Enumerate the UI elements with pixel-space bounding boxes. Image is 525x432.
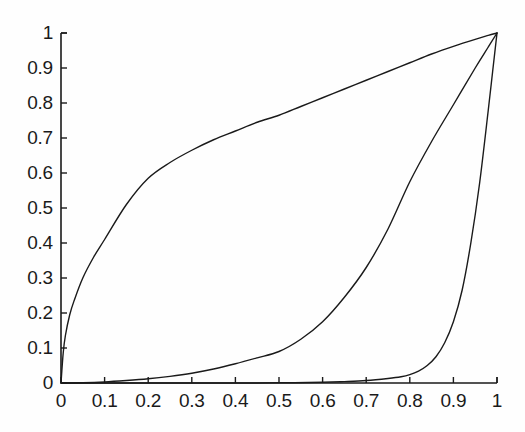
x-axis-tick-label: 0.3 — [179, 390, 205, 412]
x-axis-tick-label: 0.8 — [397, 390, 423, 412]
x-axis-tick-label: 0.6 — [310, 390, 336, 412]
data-series-group — [61, 33, 497, 383]
y-axis-tick-label: 0.6 — [0, 162, 53, 184]
y-axis-tick-label: 0.7 — [0, 127, 53, 149]
y-axis-tick-label: 0.8 — [0, 92, 53, 114]
y-axis-tick-label: 0.3 — [0, 267, 53, 289]
data-series-right-steep-curve — [61, 33, 497, 383]
x-axis-tick-label: 0.4 — [222, 390, 248, 412]
y-axis-tick-label: 0 — [0, 372, 53, 394]
y-axis-tick-label: 0.4 — [0, 232, 53, 254]
y-axis-tick-label: 0.9 — [0, 57, 53, 79]
x-axis-tick-label: 0.1 — [92, 390, 118, 412]
x-axis-tick-label: 0 — [56, 390, 66, 412]
chart-plot-area — [0, 0, 525, 432]
chart-figure: 00.10.20.30.40.50.60.70.80.91 00.10.20.3… — [0, 0, 525, 432]
data-series-middle-convex-curve — [61, 33, 497, 383]
axis-tick-marks — [61, 33, 497, 383]
x-axis-tick-label: 1 — [492, 390, 502, 412]
y-axis-tick-label: 0.1 — [0, 337, 53, 359]
y-axis-tick-label: 1 — [0, 22, 53, 44]
axis-lines — [61, 33, 497, 383]
x-axis-tick-label: 0.2 — [135, 390, 161, 412]
y-axis-tick-label: 0.2 — [0, 302, 53, 324]
x-axis-tick-label: 0.5 — [266, 390, 292, 412]
x-axis-tick-label: 0.9 — [440, 390, 466, 412]
y-axis-tick-label: 0.5 — [0, 197, 53, 219]
x-axis-tick-label: 0.7 — [353, 390, 379, 412]
data-series-upper-concave-curve — [61, 33, 497, 383]
